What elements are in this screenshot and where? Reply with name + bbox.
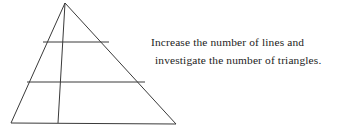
cevian-apex-to-base — [58, 3, 65, 123]
caption-line-1: Increase the number of lines and — [151, 33, 338, 51]
caption-block: Increase the number of lines and investi… — [151, 33, 338, 69]
figure-container: Increase the number of lines and investi… — [0, 0, 338, 133]
caption-line-2: investigate the number of triangles. — [151, 51, 338, 69]
triangle-left-side — [11, 3, 65, 123]
triangle-base — [11, 123, 176, 124]
